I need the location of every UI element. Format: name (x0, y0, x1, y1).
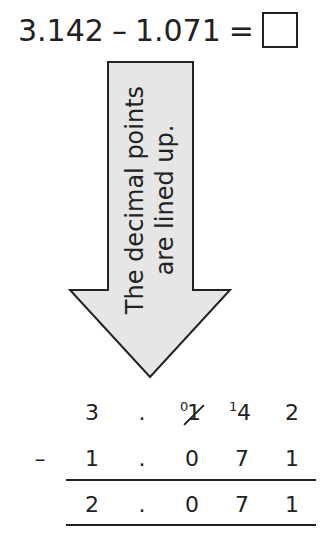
minuend-decimal-point: . (122, 400, 162, 425)
subtrahend-digit-hundredths: 7 (222, 446, 262, 471)
subtrahend-decimal-point: . (122, 446, 162, 471)
arrow-callout: The decimal points are lined up. (0, 0, 325, 400)
regroup-new-value: 0 (180, 399, 188, 414)
result-digit-thousandths: 1 (272, 492, 312, 517)
arrow-label-line-2: are lined up. (150, 70, 180, 330)
result-decimal-point: . (122, 492, 162, 517)
subtrahend-digit-tenths: 0 (172, 446, 212, 471)
result-digit-ones: 2 (72, 492, 112, 517)
divider-line-bottom (66, 524, 316, 526)
minuend-digit-thousandths: 2 (272, 400, 312, 425)
minuend-digit-hundredths: 4 (224, 400, 264, 425)
subtrahend-digit-ones: 1 (72, 446, 112, 471)
subtrahend-digit-thousandths: 1 (272, 446, 312, 471)
minuend-digit-ones: 3 (72, 400, 112, 425)
divider-line-top (66, 479, 316, 481)
result-digit-tenths: 0 (172, 492, 212, 517)
arrow-label-line-1: The decimal points (120, 70, 150, 330)
arrow-label: The decimal points are lined up. (120, 70, 180, 330)
result-digit-hundredths: 7 (222, 492, 262, 517)
subtraction-operator: – (20, 446, 60, 471)
